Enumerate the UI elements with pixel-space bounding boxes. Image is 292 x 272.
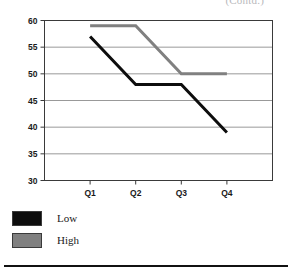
y-tick-label: 30 <box>28 176 38 186</box>
y-tick-label: 60 <box>28 16 38 26</box>
x-tick-label: Q4 <box>221 188 233 198</box>
x-tick-label: Q3 <box>176 188 188 198</box>
legend-label-high: High <box>57 234 79 246</box>
y-tick-label: 35 <box>28 149 38 159</box>
series-line-high <box>90 26 227 74</box>
chart-canvas: 30354045505560 Q1Q2Q3Q4 <box>0 8 292 208</box>
legend-swatch-high <box>12 233 42 248</box>
bottom-divider <box>4 265 288 267</box>
y-tick-label: 50 <box>28 69 38 79</box>
line-chart: 30354045505560 Q1Q2Q3Q4 <box>0 8 292 208</box>
y-axis-tick-labels: 30354045505560 <box>28 16 38 186</box>
legend-item-low: Low <box>12 207 212 229</box>
x-tick-label: Q2 <box>130 188 142 198</box>
legend-label-low: Low <box>57 212 77 224</box>
data-series-group <box>90 26 227 133</box>
x-tick-label: Q1 <box>84 188 96 198</box>
legend-swatch-low <box>12 211 42 226</box>
y-tick-label: 45 <box>28 96 38 106</box>
chart-legend: Low High <box>12 207 212 251</box>
y-axis-ticks <box>41 21 45 181</box>
caption-fragment: (Contd.) <box>225 0 264 6</box>
x-axis-ticks <box>90 181 227 185</box>
legend-item-high: High <box>12 229 212 251</box>
y-tick-label: 40 <box>28 122 38 132</box>
y-tick-label: 55 <box>28 42 38 52</box>
x-axis-tick-labels: Q1Q2Q3Q4 <box>84 188 232 198</box>
gridlines <box>45 47 273 154</box>
